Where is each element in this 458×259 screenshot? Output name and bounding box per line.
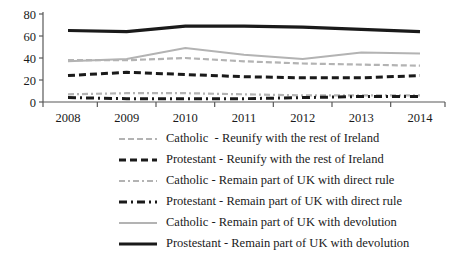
legend-label-catholic-devolution: Catholic - Remain part of UK with devolu…: [166, 216, 397, 229]
chart-container: 020406080 2008200920102011201220132014 C…: [0, 0, 458, 259]
x-axis-tick-label: 2013: [349, 111, 374, 125]
series-line-catholic-direct-rule: [68, 93, 420, 95]
legend-line-swatch-catholic-devolution: [118, 217, 158, 229]
legend-line-swatch-prostestant-devolution: [118, 238, 158, 250]
legend-item-prostestant-devolution[interactable]: Prostestant - Remain part of UK with dev…: [0, 233, 458, 254]
chart-legend: Catholic - Reunify with the rest of Irel…: [0, 128, 458, 259]
series-line-protestant-reunify: [68, 72, 420, 78]
data-series-group: [68, 26, 420, 99]
legend-label-protestant-reunify: Protestant - Reunify with the rest of Ir…: [166, 153, 384, 166]
x-axis-tick-label: 2010: [173, 111, 198, 125]
legend-line-swatch-protestant-reunify: [118, 154, 158, 166]
legend-item-catholic-direct-rule[interactable]: Catholic - Remain part of UK with direct…: [0, 170, 458, 191]
x-axis-tick-label: 2012: [290, 111, 315, 125]
legend-label-catholic-reunify: Catholic - Reunify with the rest of Irel…: [166, 132, 379, 145]
x-axis-tick-label: 2014: [408, 111, 434, 125]
y-axis: 020406080: [24, 8, 44, 110]
y-axis-tick-label: 80: [24, 8, 37, 22]
legend-line-swatch-protestant-direct-rule: [118, 196, 158, 208]
legend-item-catholic-devolution[interactable]: Catholic - Remain part of UK with devolu…: [0, 212, 458, 233]
line-chart-plot: 020406080 2008200920102011201220132014: [0, 0, 458, 130]
series-line-protestant-direct-rule: [68, 97, 420, 99]
x-axis-tick-label: 2009: [114, 111, 139, 125]
legend-item-catholic-reunify[interactable]: Catholic - Reunify with the rest of Irel…: [0, 128, 458, 149]
legend-line-swatch-catholic-direct-rule: [118, 175, 158, 187]
y-axis-tick-label: 60: [24, 30, 37, 44]
legend-item-protestant-reunify[interactable]: Protestant - Reunify with the rest of Ir…: [0, 149, 458, 170]
series-line-catholic-devolution: [68, 48, 420, 61]
series-line-prostestant-devolution: [68, 26, 420, 32]
legend-label-protestant-direct-rule: Protestant - Remain part of UK with dire…: [166, 195, 402, 208]
y-axis-tick-label: 40: [24, 52, 37, 66]
y-axis-tick-label: 20: [24, 74, 37, 88]
legend-label-prostestant-devolution: Prostestant - Remain part of UK with dev…: [166, 237, 409, 250]
x-axis-tick-label: 2008: [56, 111, 81, 125]
x-axis: 2008200920102011201220132014: [43, 102, 445, 125]
legend-label-catholic-direct-rule: Catholic - Remain part of UK with direct…: [166, 174, 394, 187]
legend-line-swatch-catholic-reunify: [118, 133, 158, 145]
x-axis-tick-label: 2011: [232, 111, 257, 125]
y-axis-tick-label: 0: [30, 96, 36, 110]
legend-item-protestant-direct-rule[interactable]: Protestant - Remain part of UK with dire…: [0, 191, 458, 212]
